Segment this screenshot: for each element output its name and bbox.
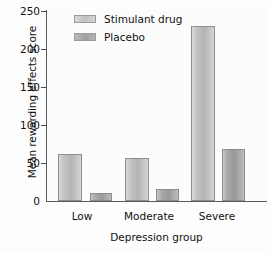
x-category-label-severe: Severe [182, 210, 252, 222]
y-tick-label: 150 [6, 82, 40, 93]
bar-stimulant-severe [191, 26, 215, 201]
x-axis-line [46, 201, 267, 202]
legend-label: Stimulant drug [104, 13, 182, 25]
stimulant-drug-swatch-icon [74, 15, 96, 23]
bar-chart: Mean rewarding effects score 250 200 150… [0, 0, 270, 253]
x-category-label-moderate: Moderate [114, 210, 184, 222]
legend: Stimulant drug Placebo [74, 12, 182, 48]
bar-stimulant-moderate [125, 158, 149, 202]
y-tick-label: 0 [6, 196, 40, 207]
legend-item-placebo: Placebo [74, 30, 182, 44]
bar-placebo-low [90, 193, 112, 201]
placebo-swatch-icon [74, 33, 96, 41]
y-tick-label: 250 [6, 6, 40, 17]
bar-placebo-severe [222, 149, 245, 201]
y-axis-tick-labels: 250 200 150 100 50 0 [4, 0, 40, 253]
legend-label: Placebo [104, 31, 145, 43]
y-tick-label: 50 [6, 158, 40, 169]
bar-placebo-moderate [156, 189, 179, 201]
bar-stimulant-low [58, 154, 82, 201]
legend-item-stimulant-drug: Stimulant drug [74, 12, 182, 26]
y-tick-label: 100 [6, 120, 40, 131]
y-tick-label: 200 [6, 44, 40, 55]
x-category-label-low: Low [48, 210, 116, 222]
x-axis-label: Depression group [46, 231, 267, 243]
